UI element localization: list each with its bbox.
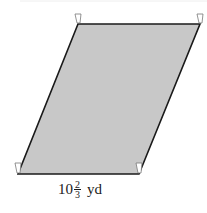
corner-marker-top-left (75, 14, 81, 23)
base-length-label: 10 2 3 yd (58, 180, 102, 199)
fraction-denominator: 3 (74, 190, 81, 199)
parallelogram-shape (18, 24, 200, 174)
label-unit: yd (87, 181, 102, 198)
label-fraction: 2 3 (74, 180, 81, 199)
parallelogram-figure (0, 0, 207, 213)
label-whole-number: 10 (58, 181, 73, 198)
corner-marker-top-right (197, 14, 203, 23)
corner-marker-bottom-left (15, 163, 21, 173)
